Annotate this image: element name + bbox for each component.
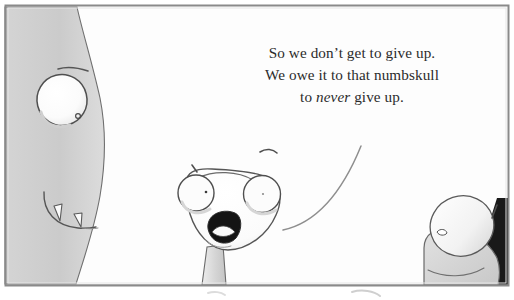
- comic-artwork: [0, 0, 514, 300]
- right-creature-eye: [437, 229, 447, 235]
- center-character-pupil-left: [205, 191, 208, 194]
- comic-panel: So we don’t get to give up. We owe it to…: [0, 0, 514, 300]
- center-character-pupil-right: [262, 193, 264, 195]
